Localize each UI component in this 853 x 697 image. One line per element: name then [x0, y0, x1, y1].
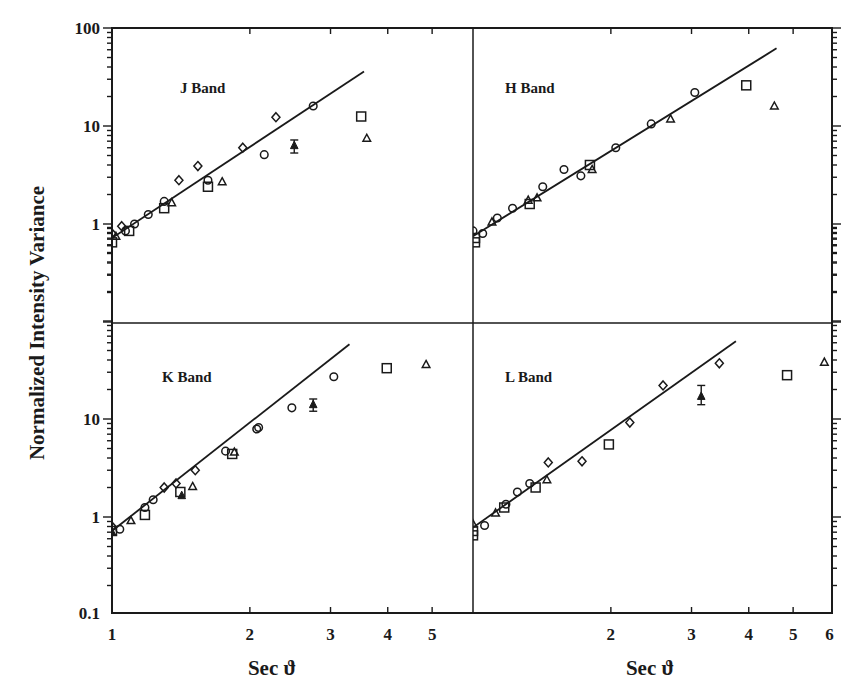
plot-frame: [112, 28, 832, 613]
y-tick-label: 1: [92, 508, 101, 527]
data-point-circle: [330, 373, 338, 381]
data-point-diamond: [194, 162, 202, 171]
data-point-filled-triangle: [290, 141, 298, 149]
data-point-diamond: [175, 176, 183, 185]
x-tick-label: 2: [246, 625, 255, 644]
data-point-circle: [691, 89, 699, 97]
tick-labels: 1001011010.11234523456: [75, 19, 834, 644]
panel-label-j: J Band: [180, 80, 226, 96]
data-point-filled-triangle: [697, 392, 705, 400]
x-tick-label: 5: [428, 625, 437, 644]
panel-k-band: [108, 344, 430, 535]
axis-ticks: [103, 28, 841, 613]
data-point-square: [742, 81, 751, 90]
data-point-circle: [260, 151, 268, 159]
data-point-square: [357, 112, 366, 121]
y-tick-label: 1: [92, 215, 101, 234]
data-point-filled-triangle: [309, 400, 317, 408]
data-point-circle: [481, 522, 489, 530]
data-point-circle: [255, 424, 263, 432]
data-point-triangle: [771, 102, 779, 109]
x-axis-title-right: Sec ϑ: [626, 656, 674, 680]
data-point-circle: [577, 172, 585, 180]
fit-line: [112, 71, 364, 237]
data-point-diamond: [272, 113, 280, 122]
data-point-circle: [560, 166, 568, 174]
data-point-square: [783, 371, 792, 380]
data-point-triangle: [821, 358, 829, 365]
x-tick-label: 5: [789, 625, 798, 644]
x-tick-label: 2: [607, 625, 616, 644]
x-tick-label: 4: [383, 625, 392, 644]
data-point-triangle: [422, 360, 430, 367]
x-tick-label: 6: [825, 625, 834, 644]
data-point-circle: [288, 404, 296, 412]
x-tick-label: 1: [108, 625, 117, 644]
data-point-triangle: [363, 134, 371, 141]
panels: [108, 48, 829, 539]
x-axis-title-left: Sec ϑ: [248, 656, 296, 680]
outer-border: [112, 28, 832, 613]
y-axis-title: Normalized Intensity Variance: [25, 186, 49, 460]
y-tick-label: 10: [83, 410, 100, 429]
data-point-triangle: [218, 178, 226, 185]
panel-j-band: [108, 71, 371, 246]
fit-line: [473, 48, 777, 236]
x-tick-label: 3: [687, 625, 696, 644]
y-tick-label: 10: [83, 117, 100, 136]
intensity-variance-chart: 1001011010.11234523456 J Band H Band K B…: [0, 0, 853, 697]
data-point-triangle: [189, 482, 197, 489]
data-point-square: [382, 364, 391, 373]
data-point-square: [604, 440, 613, 449]
data-point-circle: [514, 488, 522, 496]
panel-label-k: K Band: [162, 369, 212, 385]
x-tick-label: 4: [744, 625, 753, 644]
data-point-circle: [539, 183, 547, 191]
x-tick-label: 3: [326, 625, 335, 644]
y-tick-label: 100: [75, 19, 101, 38]
data-point-diamond: [578, 457, 586, 466]
y-tick-label: 0.1: [79, 604, 100, 623]
data-point-diamond: [715, 359, 723, 368]
fit-line: [112, 344, 349, 531]
panel-label-h: H Band: [505, 80, 555, 96]
panel-label-l: L Band: [505, 369, 553, 385]
data-point-diamond: [659, 381, 667, 390]
data-point-diamond: [544, 458, 552, 467]
panel-h-band: [469, 48, 778, 246]
